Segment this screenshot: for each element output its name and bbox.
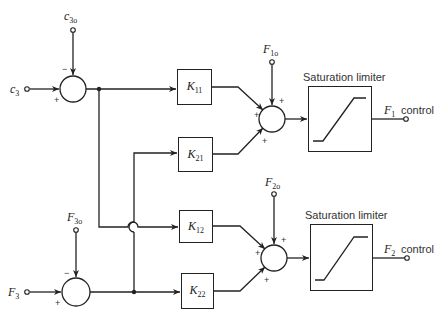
output-text-F2: control <box>401 244 434 255</box>
ref-label-c3o: c3o <box>64 10 77 25</box>
summer-top-left <box>60 76 86 102</box>
input-label-F3: F3 <box>8 286 19 301</box>
gain-block-K21: K21 <box>178 137 213 172</box>
sign-minus-top: − <box>62 65 67 74</box>
sign-plus-bottom: + <box>55 299 60 308</box>
ref-label-F2o: F2o <box>265 176 280 191</box>
sign-plus-F2o: + <box>281 236 286 245</box>
limiter-1-title: Saturation limiter <box>303 72 386 83</box>
ref-label-F1o: F1o <box>263 43 278 58</box>
input-label-c3: c3 <box>10 83 19 98</box>
sign-plus-K12: + <box>255 249 260 258</box>
ref-label-F3o: F3o <box>67 211 82 226</box>
gain-block-K11: K11 <box>177 69 212 105</box>
sign-plus-top: + <box>54 96 59 105</box>
saturation-limiter-2 <box>310 224 373 291</box>
sign-plus-K11: + <box>254 111 259 120</box>
sign-minus-bottom: − <box>64 269 69 278</box>
sign-plus-K21: + <box>262 137 267 146</box>
summer-bottom-right <box>261 245 287 271</box>
summer-top-right <box>259 106 285 132</box>
output-label-F1: F1 <box>384 104 395 119</box>
block-diagram: c3 c3o − + F3 F3o − + K11 K21 K12 K22 F1… <box>0 0 442 320</box>
sign-plus-F1o: + <box>279 97 284 106</box>
summer-bottom-left <box>62 278 90 306</box>
limiter-2-title: Saturation limiter <box>305 210 388 221</box>
sign-plus-K22: + <box>264 276 269 285</box>
junction-dot-bottom <box>132 290 136 294</box>
junction-dot-top <box>97 87 101 91</box>
output-text-F1: control <box>401 105 434 116</box>
gain-block-K22: K22 <box>181 273 214 309</box>
gain-block-K12: K12 <box>179 210 213 243</box>
saturation-limiter-1 <box>308 86 372 152</box>
output-label-F2: F2 <box>384 243 395 258</box>
